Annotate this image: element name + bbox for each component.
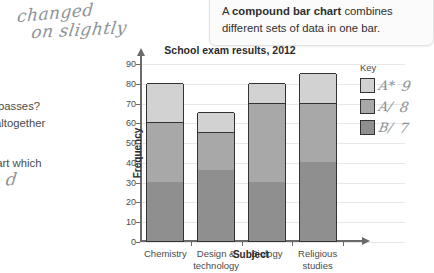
definition-callout: A compound bar chart combines different … xyxy=(209,0,434,46)
key-item: A/8 xyxy=(360,97,434,116)
bar-design-technology[interactable] xyxy=(197,113,235,242)
key-swatch xyxy=(360,120,375,135)
bar-chemistry[interactable] xyxy=(146,84,184,242)
key-grade-label: A* xyxy=(378,78,397,93)
y-axis-tick-mark xyxy=(136,84,140,85)
x-axis-tick-mark xyxy=(242,242,243,246)
y-axis-tick-mark xyxy=(136,242,140,243)
chart-key: Key A*9A/8B/7 xyxy=(360,62,434,139)
key-swatch xyxy=(360,78,375,93)
bar-segment-A[interactable] xyxy=(198,132,234,170)
y-axis-tick-label: 60 xyxy=(126,119,136,128)
bar-segment-A[interactable] xyxy=(249,103,285,182)
y-axis-tick-mark xyxy=(136,104,140,105)
y-axis-tick-mark xyxy=(136,123,140,124)
y-axis-tick-label: 30 xyxy=(126,178,136,187)
clipped-text-altogether: altogether xyxy=(0,115,45,132)
y-axis-tick-label: 10 xyxy=(126,218,136,227)
key-count-label: 8 xyxy=(399,99,410,115)
bar-segment-A[interactable] xyxy=(300,103,336,162)
y-axis-tick-mark xyxy=(136,183,140,184)
key-title: Key xyxy=(360,62,434,73)
y-axis-tick-label: 90 xyxy=(126,60,136,69)
bar-segment-A*[interactable] xyxy=(249,83,285,103)
page-root: A compound bar chart combines different … xyxy=(0,0,434,273)
key-swatch xyxy=(360,99,375,114)
x-axis-label: Subject xyxy=(140,249,362,260)
clipped-text-chart-which: hart which xyxy=(0,155,42,172)
x-axis-tick-mark xyxy=(292,242,293,246)
y-axis-tick-label: 80 xyxy=(126,79,136,88)
key-grade-label: B/ xyxy=(378,120,395,135)
handwritten-note-on-slightly: on slightly xyxy=(30,17,128,42)
bar-segment-A*[interactable] xyxy=(300,73,336,103)
key-rows: A*9A/8B/7 xyxy=(360,76,434,137)
y-axis-tick-mark xyxy=(136,143,140,144)
y-axis-tick-label: 20 xyxy=(126,198,136,207)
clipped-text-passes: passes? xyxy=(0,98,40,115)
key-count-label: 9 xyxy=(401,78,412,94)
y-axis-tick-mark xyxy=(136,222,140,223)
y-axis-tick-label: 70 xyxy=(126,99,136,108)
y-axis-tick-label: 50 xyxy=(126,139,136,148)
x-axis-tick-mark xyxy=(191,242,192,246)
callout-bold-term: compound bar chart xyxy=(232,5,341,17)
bar-segment-B[interactable] xyxy=(249,182,285,241)
bar-segment-A*[interactable] xyxy=(198,112,234,132)
key-item: B/7 xyxy=(360,118,434,137)
bar-biology[interactable] xyxy=(248,84,286,242)
bar-segment-B[interactable] xyxy=(300,162,336,241)
callout-lead: A xyxy=(222,5,232,17)
key-count-label: 7 xyxy=(399,120,410,136)
key-item: A*9 xyxy=(360,76,434,95)
bar-segment-B[interactable] xyxy=(147,182,183,241)
key-grade-label: A/ xyxy=(378,99,394,114)
chart-plot-area: Frequency 0102030405060708090 ChemistryD… xyxy=(140,64,343,242)
bar-segment-B[interactable] xyxy=(198,170,234,241)
y-axis-tick-mark xyxy=(136,202,140,203)
bar-segment-A[interactable] xyxy=(147,122,183,181)
y-axis-tick-mark xyxy=(136,64,140,65)
y-axis-tick-label: 40 xyxy=(126,158,136,167)
x-axis-tick-mark xyxy=(343,242,344,246)
compound-bar-chart: School exam results, 2012 Frequency 0102… xyxy=(105,44,375,273)
y-axis-tick-mark xyxy=(136,163,140,164)
bar-religious-studies[interactable] xyxy=(299,74,337,242)
y-axis-label: Frequency xyxy=(132,128,143,179)
bar-segment-A*[interactable] xyxy=(147,83,183,123)
